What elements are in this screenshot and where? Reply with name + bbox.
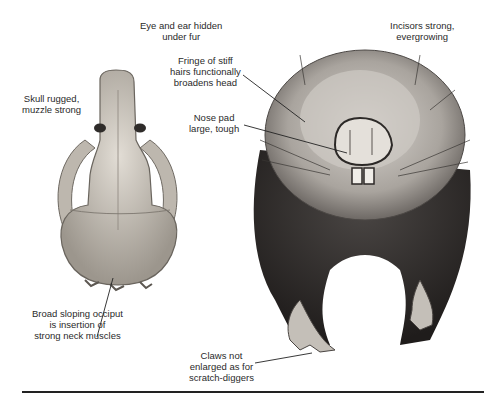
label-line: Incisors strong, (390, 20, 454, 31)
label-line: Nose pad (189, 112, 239, 123)
label-line: hairs functionally (170, 66, 241, 77)
label-line: enlarged as for (189, 361, 254, 372)
label-line: strong neck muscles (32, 330, 123, 341)
label-incisors: Incisors strong, evergrowing (390, 20, 454, 42)
label-fringe-of-hairs: Fringe of stiff hairs functionally broad… (170, 55, 241, 88)
label-line: Claws not (189, 350, 254, 361)
label-skull-rugged: Skull rugged, muzzle strong (22, 93, 81, 115)
label-line: evergrowing (390, 31, 454, 42)
figure-caption-clipped: ▬▬▬▬▬▬ (22, 395, 94, 399)
label-line: Skull rugged, (22, 93, 81, 104)
label-line: Eye and ear hidden (140, 20, 222, 31)
label-line: broadens head (170, 77, 241, 88)
label-line: under fur (140, 31, 222, 42)
label-line: large, tough (189, 123, 239, 134)
caption-rule (22, 391, 484, 393)
label-broad-occiput: Broad sloping occiput is insertion of st… (32, 308, 123, 341)
mole-drawing (254, 50, 471, 352)
label-eye-ear-hidden: Eye and ear hidden under fur (140, 20, 222, 42)
label-line: scratch-diggers (189, 372, 254, 383)
label-claws: Claws not enlarged as for scratch-digger… (189, 350, 254, 383)
label-line: muzzle strong (22, 104, 81, 115)
label-line: Broad sloping occiput (32, 308, 123, 319)
label-nose-pad: Nose pad large, tough (189, 112, 239, 134)
label-line: is insertion of (32, 319, 123, 330)
label-line: Fringe of stiff (170, 55, 241, 66)
